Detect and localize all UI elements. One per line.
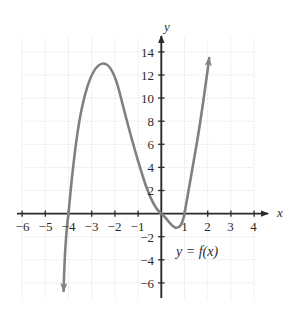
function-annotation-label: y = f(x) [176, 245, 218, 259]
ytick-label-2: 2 [135, 184, 154, 197]
ytick-label-neg6: −6 [131, 277, 154, 290]
function-graph-figure: −6 −5 −4 −3 −2 −1 1 2 3 4 14 12 10 8 6 4… [0, 0, 293, 313]
ytick-label-10: 10 [135, 92, 154, 105]
xtick-label-neg3: −3 [83, 220, 100, 233]
xtick-label-4: 4 [249, 220, 258, 233]
xtick-label-neg5: −5 [37, 220, 54, 233]
y-axis-label: y [164, 20, 170, 33]
ytick-label-8: 8 [135, 115, 154, 128]
ytick-label-12: 12 [135, 69, 154, 82]
xtick-label-neg2: −2 [106, 220, 123, 233]
xtick-label-neg4: −4 [60, 220, 77, 233]
xtick-label-1: 1 [180, 220, 189, 233]
ytick-label-4: 4 [135, 161, 154, 174]
x-axis-label: x [277, 206, 283, 219]
ytick-label-neg2: −2 [131, 231, 154, 244]
ytick-label-neg4: −4 [131, 254, 154, 267]
xtick-label-2: 2 [203, 220, 212, 233]
xtick-label-neg6: −6 [14, 220, 31, 233]
xtick-label-3: 3 [226, 220, 235, 233]
ytick-label-6: 6 [135, 138, 154, 151]
ytick-label-14: 14 [135, 46, 154, 59]
